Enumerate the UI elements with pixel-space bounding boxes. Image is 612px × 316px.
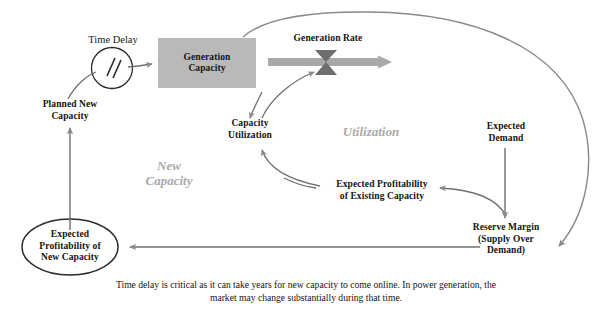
stock-generation-capacity-label: Generation Capacity [184,52,231,75]
stock-generation-capacity[interactable]: Generation Capacity [158,38,256,88]
variable-expected-demand[interactable]: Expected Demand [472,121,540,144]
variable-expected-profitability-new-capacity[interactable]: Expected Profitability of New Capacity [25,229,115,264]
loop-label-utilization: Utilization [322,124,420,139]
variable-reserve-margin[interactable]: Reserve Margin (Supply Over Demand) [452,222,560,257]
flow-generation-rate-label: Generation Rate [278,33,378,45]
variable-expected-profitability-existing-capacity[interactable]: Expected Profitability of Existing Capac… [320,179,444,202]
connector-layer [0,0,612,316]
diagram-caption: Time delay is critical as it can take ye… [106,278,506,304]
link-reserve-margin-to-expected-profitability-existing [440,188,506,216]
generation-rate-flow-pipe [268,50,392,75]
variable-capacity-utilization[interactable]: Capacity Utilization [212,118,288,141]
diagram-canvas: Generation Capacity Generation Rate Time… [0,0,612,316]
link-planned-new-capacity-to-time-delay [68,72,96,99]
time-delay-label: Time Delay [74,34,152,45]
link-generation-capacity-to-capacity-utilization [250,92,262,118]
variable-planned-new-capacity[interactable]: Planned New Capacity [25,99,115,122]
loop-label-new-capacity: New Capacity [123,158,215,188]
time-delay-symbol [92,48,133,89]
link-existing-capacity-left-tail [284,178,316,188]
link-capacity-utilization-to-generation-rate [262,72,314,118]
